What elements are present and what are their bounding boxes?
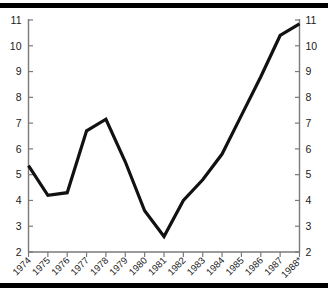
left-axis-tick-label: 8 [16, 91, 22, 103]
right-axis-labels-group: 234567891011 [306, 14, 318, 258]
x-axis-tick-label: 1985 [223, 255, 246, 278]
x-axis-tick-label: 1984 [204, 255, 227, 278]
right-axis-tick-label: 4 [306, 194, 312, 206]
x-axis-tick-label: 1983 [184, 255, 207, 278]
right-axis-tick-label: 3 [306, 220, 312, 232]
right-axis-tick-label: 6 [306, 143, 312, 155]
y-tick-marks-group [29, 20, 300, 252]
left-axis-tick-label: 9 [16, 65, 22, 77]
left-axis-tick-label: 10 [10, 40, 22, 52]
left-axis-labels-group: 234567891011 [10, 14, 22, 258]
right-axis-tick-label: 2 [306, 246, 312, 258]
right-axis-tick-label: 11 [306, 14, 317, 26]
x-axis-tick-label: 1986 [242, 255, 265, 278]
left-axis-tick-label: 6 [16, 143, 22, 155]
right-axis-tick-label: 7 [306, 117, 312, 129]
x-axis-tick-label: 1977 [68, 255, 91, 278]
data-line-series-1 [29, 24, 300, 237]
left-axis-tick-label: 7 [16, 117, 22, 129]
x-axis-tick-label: 1978 [88, 255, 111, 278]
left-axis-tick-label: 4 [16, 194, 22, 206]
left-axis-tick-label: 11 [11, 14, 22, 26]
right-axis-tick-label: 8 [306, 91, 312, 103]
line-chart-plot: 234567891011 234567891011 19741975197619… [0, 0, 328, 291]
x-axis-tick-label: 1980 [126, 255, 149, 278]
x-axis-tick-label: 1974 [10, 255, 33, 278]
right-axis-tick-label: 10 [306, 40, 318, 52]
right-axis-tick-label: 5 [306, 168, 312, 180]
x-axis-tick-label: 1982 [165, 255, 188, 278]
x-axis-tick-label: 1975 [30, 255, 53, 278]
axes-group [29, 19, 300, 252]
left-axis-tick-label: 2 [16, 246, 22, 258]
x-axis-tick-label: 1988* [279, 254, 305, 280]
left-axis-tick-label: 3 [16, 220, 22, 232]
x-axis-tick-label: 1979 [107, 255, 130, 278]
right-axis-tick-label: 9 [306, 65, 312, 77]
x-axis-tick-label: 1981 [146, 255, 169, 278]
left-axis-tick-label: 5 [16, 168, 22, 180]
data-series-group [29, 24, 300, 237]
x-axis-tick-label: 1976 [49, 255, 72, 278]
x-axis-labels-group: 1974197519761977197819791980198119821983… [10, 254, 304, 280]
chart-figure: 234567891011 234567891011 19741975197619… [0, 0, 328, 291]
